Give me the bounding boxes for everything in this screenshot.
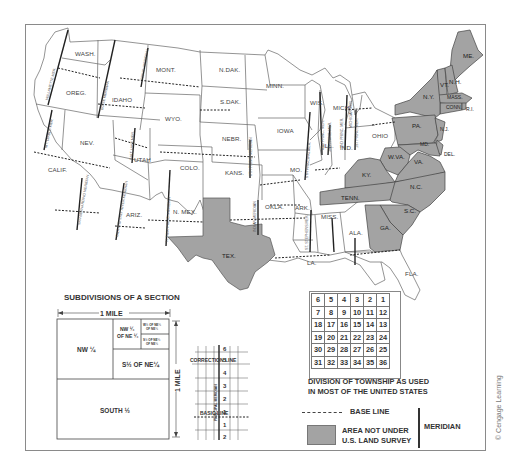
svg-text:NEBR.: NEBR. xyxy=(222,135,242,142)
svg-text:MASS.: MASS. xyxy=(447,94,463,100)
svg-text:W.VA.: W.VA. xyxy=(388,153,405,160)
svg-text:2: 2 xyxy=(223,434,227,440)
meridian-line-icon xyxy=(418,408,420,448)
w-half-label-2: OF NE¼ xyxy=(146,327,158,331)
svg-text:ST. STEPHENS MER.: ST. STEPHENS MER. xyxy=(305,214,309,250)
svg-text:VA.: VA. xyxy=(414,158,424,165)
svg-text:FLA.: FLA. xyxy=(405,270,419,277)
copyright-credit: © Cengage Learning xyxy=(495,375,502,440)
svg-text:3: 3 xyxy=(223,383,227,389)
svg-text:ARIZ.: ARIZ. xyxy=(126,211,142,218)
table-row: 302928272625 xyxy=(312,344,390,357)
dashed-line-icon xyxy=(302,412,342,413)
svg-text:6: 6 xyxy=(223,346,227,352)
svg-text:ME.: ME. xyxy=(463,52,474,59)
svg-text:NEV.: NEV. xyxy=(80,139,94,146)
svg-text:MISS.: MISS. xyxy=(321,213,339,220)
svg-text:3RD PRINC. MER.: 3RD PRINC. MER. xyxy=(328,122,332,152)
svg-text:TEX.: TEX. xyxy=(222,252,236,259)
svg-text:DEL.: DEL. xyxy=(444,151,455,157)
svg-text:S.C.: S.C. xyxy=(404,207,416,214)
township-caption: DIVISION OF TOWNSHIP AS USED IN MOST OF … xyxy=(308,377,438,397)
table-row: 654321 xyxy=(312,294,390,307)
legend-meridian: MERIDIAN xyxy=(424,422,461,431)
svg-text:OREG.: OREG. xyxy=(66,89,87,96)
svg-text:CALIF.: CALIF. xyxy=(48,166,67,173)
svg-text:N.DAK.: N.DAK. xyxy=(219,66,240,73)
south-half-label: SOUTH ½ xyxy=(100,407,131,414)
svg-text:OKLA.: OKLA. xyxy=(265,203,284,210)
state-pa xyxy=(392,115,438,145)
correction-line-label: CORRECTION LINE xyxy=(190,357,237,363)
svg-text:TENN.: TENN. xyxy=(341,194,360,201)
nw-quarter-label: NW ¼ xyxy=(77,346,96,353)
svg-text:2ND PRINC. MER.: 2ND PRINC. MER. xyxy=(340,118,344,148)
svg-text:IOWA: IOWA xyxy=(277,127,294,134)
table-row: 192021222324 xyxy=(312,331,390,344)
svg-text:SAN BERNARDINO MERIDIAN: SAN BERNARDINO MERIDIAN xyxy=(77,174,90,225)
svg-text:KY.: KY. xyxy=(362,171,371,178)
legend-area-not-under: AREA NOT UNDER U.S. LAND SURVEY xyxy=(342,426,411,446)
svg-text:IDAHO: IDAHO xyxy=(112,96,132,103)
section-title: SUBDIVISIONS OF A SECTION xyxy=(64,293,180,302)
svg-text:VT.: VT. xyxy=(440,81,449,88)
svg-text:CONN.: CONN. xyxy=(446,104,462,110)
svg-text:COLO.: COLO. xyxy=(180,164,200,171)
svg-text:GA.: GA. xyxy=(380,224,391,231)
svg-text:ALA.: ALA. xyxy=(349,229,363,236)
s-half-small-label-2: OF NE¼ xyxy=(146,342,158,346)
nw-of-ne-label-2: OF NE ¼ xyxy=(117,333,139,339)
svg-text:N. MEX. PRINC. MERIDIAN: N. MEX. PRINC. MERIDIAN xyxy=(165,196,171,242)
svg-text:N. MEX.: N. MEX. xyxy=(173,208,197,215)
height-label: 1 MILE xyxy=(174,369,181,392)
width-label: 1 MILE xyxy=(100,310,123,317)
svg-text:MO.: MO. xyxy=(290,166,302,173)
svg-text:PA.: PA. xyxy=(412,122,422,129)
svg-text:S.DAK.: S.DAK. xyxy=(220,98,241,105)
svg-text:N.Y.: N.Y. xyxy=(423,93,435,100)
svg-text:N.H.: N.H. xyxy=(449,78,462,85)
svg-text:WASH.: WASH. xyxy=(75,50,96,57)
table-row: 313233343536 xyxy=(312,356,390,369)
svg-text:KANS.: KANS. xyxy=(225,169,244,176)
svg-text:WIS.: WIS. xyxy=(310,99,324,106)
svg-text:6TH PRINC. MERIDIAN: 6TH PRINC. MERIDIAN xyxy=(249,137,253,176)
svg-text:MONT.: MONT. xyxy=(156,66,176,73)
svg-text:LA.: LA. xyxy=(307,259,317,266)
svg-text:1ST PRINC. MER.: 1ST PRINC. MER. xyxy=(355,118,359,148)
township-grid-diagram: CORRECTION LINE BASIC LINE PRINCIPAL MER… xyxy=(190,345,250,440)
nw-of-ne-label-1: NW ¼ xyxy=(120,326,135,332)
svg-text:1: 1 xyxy=(223,422,227,428)
svg-text:MICHIGAN MER.: MICHIGAN MER. xyxy=(349,100,353,128)
svg-text:ARK.: ARK. xyxy=(295,204,310,211)
svg-text:OHIO: OHIO xyxy=(372,132,388,139)
svg-text:WYO.: WYO. xyxy=(165,115,182,122)
svg-text:2: 2 xyxy=(223,396,227,402)
svg-text:UTAH: UTAH xyxy=(134,156,151,163)
township-section-table: 654321 789101112 181716151413 1920212223… xyxy=(311,293,390,369)
legend-base-line: BASE LINE xyxy=(302,407,389,416)
section-subdivision-diagram: SUBDIVISIONS OF A SECTION 1 MILE NW ¼ NW… xyxy=(57,293,181,439)
svg-text:N.J.: N.J. xyxy=(440,126,449,132)
svg-text:4: 4 xyxy=(223,370,227,376)
svg-text:4TH PRINC. MER.: 4TH PRINC. MER. xyxy=(321,120,325,150)
svg-text:MD.: MD. xyxy=(420,141,429,147)
shaded-area-swatch-icon xyxy=(307,425,336,445)
svg-text:INDIAN MERIDIAN: INDIAN MERIDIAN xyxy=(253,201,257,232)
svg-text:R.I.: R.I. xyxy=(466,106,474,112)
svg-text:MINN.: MINN. xyxy=(266,82,284,89)
table-row: 789101112 xyxy=(312,306,390,319)
svg-text:N.C.: N.C. xyxy=(410,183,423,190)
table-row: 181716151413 xyxy=(312,319,390,332)
principal-meridian-label: PRINCIPAL MERIDIAN xyxy=(214,384,218,421)
s-half-ne-label: S½ OF NE¼ xyxy=(122,361,159,368)
